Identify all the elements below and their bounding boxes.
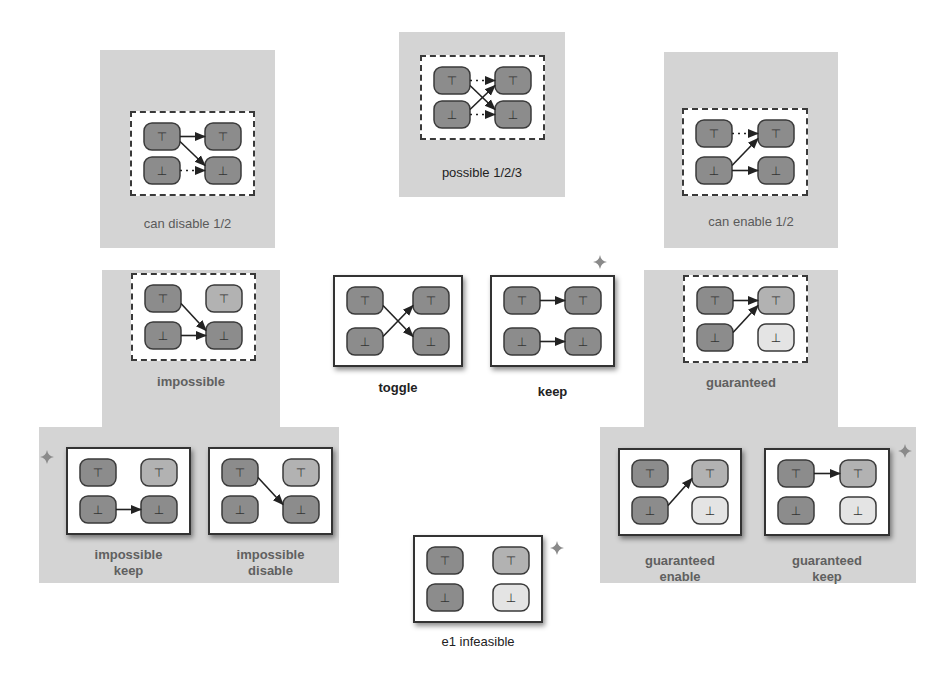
top-symbol: ⊤	[710, 294, 720, 308]
bottom-symbol: ⊥	[705, 504, 715, 518]
edge-arrow	[733, 306, 758, 333]
top-symbol: ⊤	[771, 294, 781, 308]
keep-panel: ⊤⊤⊥⊥	[490, 275, 615, 367]
node-tl-dark: ⊤	[80, 459, 116, 486]
four-point-star-icon	[40, 450, 54, 464]
keep-label: keep	[490, 384, 615, 400]
guaranteed-keep-panel: ⊤⊤⊥⊥	[764, 448, 890, 536]
node-tr-dark: ⊤	[205, 123, 241, 150]
top-symbol: ⊤	[578, 294, 588, 308]
node-br-dark: ⊥	[283, 496, 319, 523]
node-tr-medium: ⊤	[206, 285, 242, 312]
edge-arrow	[180, 142, 205, 166]
bottom-symbol: ⊥	[791, 504, 801, 518]
can-disable-graph: ⊤⊤⊥⊥	[132, 113, 253, 194]
guaranteed-graph: ⊤⊤⊥⊥	[685, 277, 806, 361]
node-bl-dark: ⊥	[697, 324, 733, 351]
top-symbol: ⊤	[447, 74, 457, 88]
bottom-symbol: ⊥	[771, 164, 781, 178]
bottom-symbol: ⊥	[853, 504, 863, 518]
node-br-dark: ⊥	[205, 157, 241, 184]
guaranteed-enable-graph: ⊤⊤⊥⊥	[620, 450, 740, 534]
node-tl-dark: ⊤	[504, 287, 540, 314]
impossible-keep-label: impossible keep	[66, 547, 191, 579]
impossible-disable-label: impossible disable	[208, 547, 333, 579]
node-br-light: ⊥	[493, 584, 529, 611]
node-bl-dark: ⊥	[80, 496, 116, 523]
top-symbol: ⊤	[157, 130, 167, 144]
node-tl-dark: ⊤	[347, 287, 383, 314]
bottom-symbol: ⊥	[645, 504, 655, 518]
node-bl-dark: ⊥	[144, 157, 180, 184]
node-br-light: ⊥	[758, 324, 794, 351]
bottom-symbol: ⊥	[710, 331, 720, 345]
bottom-symbol: ⊥	[296, 503, 306, 517]
node-tr-medium: ⊤	[283, 459, 319, 486]
can-disable-label: can disable 1/2	[100, 216, 275, 232]
node-br-dark: ⊥	[495, 101, 531, 128]
node-bl-dark: ⊥	[632, 497, 668, 524]
impossible-disable-panel: ⊤⊤⊥⊥	[208, 447, 333, 535]
four-point-star-icon	[593, 255, 607, 269]
edge-arrow	[668, 479, 692, 506]
top-symbol: ⊤	[93, 466, 103, 480]
node-bl-dark: ⊥	[504, 328, 540, 355]
node-bl-dark: ⊥	[222, 496, 258, 523]
top-symbol: ⊤	[158, 292, 168, 306]
bottom-symbol: ⊥	[506, 591, 516, 605]
guaranteed-keep-graph: ⊤⊤⊥⊥	[766, 450, 888, 534]
can-enable-graph: ⊤⊤⊥⊥	[684, 110, 806, 194]
top-symbol: ⊤	[705, 467, 715, 481]
bottom-symbol: ⊥	[517, 335, 527, 349]
toggle-panel: ⊤⊤⊥⊥	[333, 275, 463, 367]
node-tr-medium: ⊤	[141, 459, 177, 486]
top-symbol: ⊤	[296, 466, 306, 480]
bottom-symbol: ⊥	[426, 335, 436, 349]
node-tr-dark: ⊤	[565, 287, 601, 314]
toggle-label: toggle	[333, 380, 463, 396]
node-bl-dark: ⊥	[778, 497, 814, 524]
node-tl-dark: ⊤	[696, 120, 732, 147]
top-symbol: ⊤	[219, 292, 229, 306]
bottom-symbol: ⊥	[578, 335, 588, 349]
node-br-light: ⊥	[840, 497, 876, 524]
bottom-symbol: ⊥	[157, 164, 167, 178]
node-bl-dark: ⊥	[145, 322, 181, 349]
top-symbol: ⊤	[517, 294, 527, 308]
edge-arrow	[258, 478, 283, 505]
node-tl-dark: ⊤	[632, 460, 668, 487]
bottom-symbol: ⊥	[235, 503, 245, 517]
top-symbol: ⊤	[506, 554, 516, 568]
impossible-graph: ⊤⊤⊥⊥	[133, 275, 254, 359]
node-br-dark: ⊥	[413, 328, 449, 355]
bottom-symbol: ⊥	[709, 164, 719, 178]
node-tl-dark: ⊤	[145, 285, 181, 312]
keep-graph: ⊤⊤⊥⊥	[492, 277, 613, 365]
four-point-star-icon	[898, 444, 912, 458]
top-symbol: ⊤	[791, 467, 801, 481]
possible-graph: ⊤⊤⊥⊥	[422, 57, 543, 138]
toggle-graph: ⊤⊤⊥⊥	[335, 277, 461, 365]
edge-arrow	[181, 304, 206, 331]
top-symbol: ⊤	[360, 294, 370, 308]
top-symbol: ⊤	[154, 466, 164, 480]
node-tr-dark: ⊤	[413, 287, 449, 314]
node-bl-dark: ⊥	[427, 584, 463, 611]
node-tl-dark: ⊤	[697, 287, 733, 314]
impossible-label: impossible	[102, 374, 280, 390]
top-symbol: ⊤	[440, 554, 450, 568]
node-br-dark: ⊥	[206, 322, 242, 349]
can-enable-panel: ⊤⊤⊥⊥	[682, 108, 808, 196]
bottom-symbol: ⊥	[93, 503, 103, 517]
bottom-symbol: ⊥	[158, 329, 168, 343]
node-tl-dark: ⊤	[222, 459, 258, 486]
can-disable-panel: ⊤⊤⊥⊥	[130, 111, 255, 196]
node-bl-dark: ⊥	[347, 328, 383, 355]
e1-infeasible-label: e1 infeasible	[413, 634, 543, 650]
top-symbol: ⊤	[218, 130, 228, 144]
top-symbol: ⊤	[235, 466, 245, 480]
top-symbol: ⊤	[426, 294, 436, 308]
bottom-symbol: ⊥	[360, 335, 370, 349]
guaranteed-label: guaranteed	[644, 375, 838, 391]
node-tl-dark: ⊤	[778, 460, 814, 487]
